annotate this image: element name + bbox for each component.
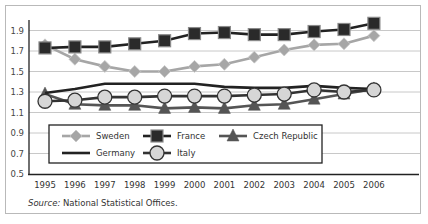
line-chart: 0.50.70.91.11.31.51.71.9 199519961997199… bbox=[0, 0, 428, 224]
y-tick-label: 0.9 bbox=[10, 128, 24, 138]
diamond-marker bbox=[69, 53, 81, 65]
square-marker bbox=[151, 130, 163, 142]
circle-marker bbox=[188, 89, 202, 103]
source-label: Source: bbox=[28, 198, 60, 208]
square-marker bbox=[218, 27, 230, 39]
x-tick-label: 2002 bbox=[243, 180, 265, 190]
circle-marker bbox=[307, 83, 321, 97]
circle-marker bbox=[217, 89, 231, 103]
x-tick-label: 1999 bbox=[154, 180, 176, 190]
x-tick-label: 2001 bbox=[214, 180, 236, 190]
circle-marker bbox=[150, 146, 164, 160]
y-tick-label: 0.5 bbox=[10, 169, 24, 179]
x-tick-label: 2003 bbox=[273, 180, 295, 190]
source-text: National Statistical Offices. bbox=[60, 198, 177, 208]
x-tick-label: 1997 bbox=[94, 180, 116, 190]
circle-marker bbox=[337, 85, 351, 99]
circle-marker bbox=[38, 94, 52, 108]
y-tick-label: 1.9 bbox=[10, 26, 24, 36]
y-tick-label: 1.1 bbox=[10, 108, 24, 118]
y-tick-label: 1.7 bbox=[10, 46, 24, 56]
x-tick-label: 2006 bbox=[363, 180, 385, 190]
diamond-marker bbox=[278, 44, 290, 56]
diamond-marker bbox=[308, 39, 320, 51]
square-marker bbox=[69, 41, 81, 53]
source-note: Source: National Statistical Offices. bbox=[28, 198, 178, 208]
data-series bbox=[38, 17, 381, 113]
y-axis-ticks: 0.50.70.91.11.31.51.71.9 bbox=[10, 26, 24, 180]
y-tick-label: 0.7 bbox=[10, 149, 24, 159]
circle-marker bbox=[128, 90, 142, 104]
circle-marker bbox=[247, 88, 261, 102]
square-marker bbox=[278, 29, 290, 41]
square-marker bbox=[189, 28, 201, 40]
legend-label: Sweden bbox=[96, 131, 130, 141]
circle-marker bbox=[277, 87, 291, 101]
square-marker bbox=[129, 38, 141, 50]
legend: SwedenFranceCzech RepublicGermanyItaly bbox=[49, 125, 322, 163]
square-marker bbox=[368, 17, 380, 29]
x-tick-label: 1996 bbox=[64, 180, 86, 190]
diamond-marker bbox=[159, 66, 171, 78]
square-marker bbox=[39, 42, 51, 54]
square-marker bbox=[338, 23, 350, 35]
circle-marker bbox=[98, 90, 112, 104]
circle-marker bbox=[158, 89, 172, 103]
x-tick-label: 2004 bbox=[303, 180, 325, 190]
x-tick-label: 2005 bbox=[333, 180, 355, 190]
diamond-marker bbox=[248, 51, 260, 63]
legend-label: France bbox=[177, 131, 205, 141]
x-tick-label: 1995 bbox=[34, 180, 56, 190]
y-tick-label: 1.3 bbox=[10, 87, 24, 97]
legend-item-czech-republic: Czech Republic bbox=[219, 129, 318, 141]
diamond-marker bbox=[99, 60, 111, 72]
series-line bbox=[45, 36, 374, 72]
diamond-marker bbox=[218, 58, 230, 70]
series-sweden bbox=[39, 30, 380, 78]
square-marker bbox=[99, 41, 111, 53]
diamond-marker bbox=[338, 38, 350, 50]
x-axis-ticks: 1995199619971998199920002001200220032004… bbox=[34, 180, 385, 190]
legend-label: Germany bbox=[96, 148, 135, 158]
legend-label: Italy bbox=[177, 148, 195, 158]
diamond-marker bbox=[129, 66, 141, 78]
diamond-marker bbox=[368, 30, 380, 42]
y-tick-label: 1.5 bbox=[10, 67, 24, 77]
square-marker bbox=[248, 29, 260, 41]
x-tick-label: 1998 bbox=[124, 180, 146, 190]
series-france bbox=[39, 17, 380, 54]
circle-marker bbox=[68, 93, 82, 107]
circle-marker bbox=[367, 83, 381, 97]
x-tick-label: 2000 bbox=[184, 180, 206, 190]
legend-label: Czech Republic bbox=[253, 131, 318, 141]
diamond-marker bbox=[189, 60, 201, 72]
square-marker bbox=[308, 26, 320, 38]
square-marker bbox=[159, 35, 171, 47]
